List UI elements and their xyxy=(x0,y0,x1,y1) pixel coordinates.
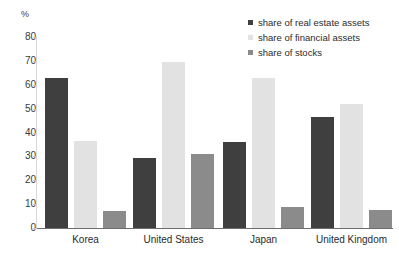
x-axis-category-label: Japan xyxy=(213,234,314,245)
bar xyxy=(281,207,304,228)
bar xyxy=(45,78,68,228)
bar xyxy=(133,158,156,228)
legend-swatch-icon xyxy=(248,50,253,55)
legend-item[interactable]: share of real estate assets xyxy=(248,16,369,29)
legend-label: share of real estate assets xyxy=(258,17,369,28)
bar xyxy=(74,141,97,228)
bar xyxy=(191,154,214,228)
bar-group xyxy=(223,37,304,228)
legend-swatch-icon xyxy=(248,35,253,40)
x-axis-category-label: Korea xyxy=(35,234,136,245)
x-axis-category-label: United States xyxy=(123,234,224,245)
bar xyxy=(162,62,185,228)
legend-item[interactable]: share of financial assets xyxy=(248,31,369,44)
legend-swatch-icon xyxy=(248,20,253,25)
bar-group xyxy=(133,37,214,228)
bar-chart: % 01020304050607080 KoreaUnited StatesJa… xyxy=(0,0,399,262)
plot-area xyxy=(37,37,393,228)
chart-legend: share of real estate assetsshare of fina… xyxy=(248,16,369,61)
bar-group-bars xyxy=(311,37,392,228)
y-axis-tick-mark xyxy=(33,228,37,229)
bar xyxy=(311,117,334,228)
bar-group-bars xyxy=(223,37,304,228)
x-axis-category-label: United Kingdom xyxy=(301,234,399,245)
bar xyxy=(223,142,246,228)
bar xyxy=(340,104,363,228)
bar xyxy=(252,78,275,228)
x-axis-line xyxy=(36,228,393,229)
bar-group-bars xyxy=(133,37,214,228)
legend-item[interactable]: share of stocks xyxy=(248,46,369,59)
legend-label: share of financial assets xyxy=(258,32,360,43)
bar-group xyxy=(311,37,392,228)
bar-group xyxy=(45,37,126,228)
bar xyxy=(369,210,392,228)
bar xyxy=(103,211,126,228)
y-axis-unit-label: % xyxy=(21,9,29,19)
bar-group-bars xyxy=(45,37,126,228)
legend-label: share of stocks xyxy=(258,47,322,58)
